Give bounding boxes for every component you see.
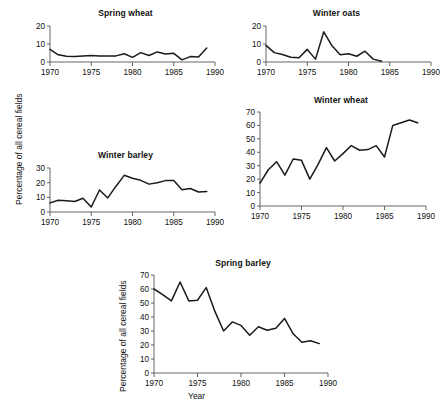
figure-multi-panel-line-charts: Percentage of all cereal fields Spring w… xyxy=(0,0,444,414)
svg-text:1980: 1980 xyxy=(334,212,353,221)
chart-winter-wheat: 01020304050607019701975198019851990 xyxy=(236,106,436,224)
panel-title-winter-oats: Winter oats xyxy=(244,8,429,18)
svg-text:30: 30 xyxy=(36,164,46,173)
svg-text:40: 40 xyxy=(246,148,256,157)
svg-text:1990: 1990 xyxy=(319,379,338,388)
svg-text:1975: 1975 xyxy=(298,68,317,77)
svg-text:10: 10 xyxy=(36,40,46,49)
svg-text:1980: 1980 xyxy=(123,68,142,77)
series-line xyxy=(50,175,207,207)
svg-text:1980: 1980 xyxy=(339,68,358,77)
panel-title-spring-barley: Spring barley xyxy=(148,258,338,268)
svg-text:30: 30 xyxy=(246,162,256,171)
svg-text:70: 70 xyxy=(140,271,150,280)
svg-text:70: 70 xyxy=(246,108,256,117)
svg-text:1970: 1970 xyxy=(41,68,60,77)
svg-text:1975: 1975 xyxy=(292,212,311,221)
svg-text:50: 50 xyxy=(246,135,256,144)
svg-text:1985: 1985 xyxy=(381,68,400,77)
svg-text:1970: 1970 xyxy=(41,218,60,227)
chart-winter-barley: 010203019701975198019851990 xyxy=(28,162,223,230)
svg-text:50: 50 xyxy=(140,299,150,308)
svg-text:1970: 1970 xyxy=(251,212,270,221)
x-axis-label-year: Year xyxy=(188,391,205,401)
svg-text:0: 0 xyxy=(40,58,45,67)
svg-text:20: 20 xyxy=(252,22,262,31)
svg-text:1970: 1970 xyxy=(257,68,276,77)
svg-text:20: 20 xyxy=(246,175,256,184)
svg-text:0: 0 xyxy=(256,58,261,67)
svg-text:1980: 1980 xyxy=(123,218,142,227)
svg-text:1990: 1990 xyxy=(206,68,225,77)
svg-text:20: 20 xyxy=(140,341,150,350)
svg-text:30: 30 xyxy=(140,327,150,336)
svg-text:1990: 1990 xyxy=(422,68,441,77)
series-line xyxy=(50,48,207,60)
svg-text:10: 10 xyxy=(140,355,150,364)
series-line xyxy=(266,32,382,62)
svg-text:0: 0 xyxy=(40,208,45,217)
svg-text:1975: 1975 xyxy=(82,68,101,77)
svg-text:1985: 1985 xyxy=(275,379,294,388)
svg-text:1985: 1985 xyxy=(375,212,394,221)
panel-spring-wheat: Spring wheat 0102019701975198019851990 xyxy=(28,8,223,80)
panel-title-winter-barley: Winter barley xyxy=(28,150,223,160)
spring-barley-y-axis-label: Percentage of all cereal fields xyxy=(118,280,128,392)
svg-text:0: 0 xyxy=(144,369,149,378)
panel-spring-barley: Spring barley 01020304050607019701975198… xyxy=(128,258,338,403)
series-line xyxy=(154,282,319,344)
svg-text:1990: 1990 xyxy=(206,218,225,227)
svg-text:40: 40 xyxy=(140,313,150,322)
svg-text:20: 20 xyxy=(36,179,46,188)
svg-text:10: 10 xyxy=(252,40,262,49)
svg-text:60: 60 xyxy=(246,121,256,130)
svg-text:1985: 1985 xyxy=(165,68,184,77)
svg-text:0: 0 xyxy=(250,202,255,211)
panel-winter-wheat: Winter wheat 010203040506070197019751980… xyxy=(236,95,436,225)
shared-y-axis-label: Percentage of all cereal fields xyxy=(14,93,24,205)
svg-text:1990: 1990 xyxy=(417,212,436,221)
panel-title-winter-wheat: Winter wheat xyxy=(246,95,436,105)
series-line xyxy=(260,120,418,183)
panel-winter-barley: Winter barley 01020301970197519801985199… xyxy=(28,150,223,230)
panel-winter-oats: Winter oats 0102019701975198019851990 xyxy=(244,8,439,80)
svg-text:60: 60 xyxy=(140,285,150,294)
svg-text:1985: 1985 xyxy=(165,218,184,227)
svg-text:10: 10 xyxy=(246,189,256,198)
panel-title-spring-wheat: Spring wheat xyxy=(28,8,223,18)
chart-spring-wheat: 0102019701975198019851990 xyxy=(28,20,223,80)
svg-text:1980: 1980 xyxy=(232,379,251,388)
svg-text:10: 10 xyxy=(36,193,46,202)
chart-winter-oats: 0102019701975198019851990 xyxy=(244,20,439,80)
chart-spring-barley: 01020304050607019701975198019851990 xyxy=(128,269,338,391)
svg-text:1975: 1975 xyxy=(188,379,207,388)
svg-text:20: 20 xyxy=(36,22,46,31)
svg-text:1975: 1975 xyxy=(82,218,101,227)
svg-text:1970: 1970 xyxy=(145,379,164,388)
